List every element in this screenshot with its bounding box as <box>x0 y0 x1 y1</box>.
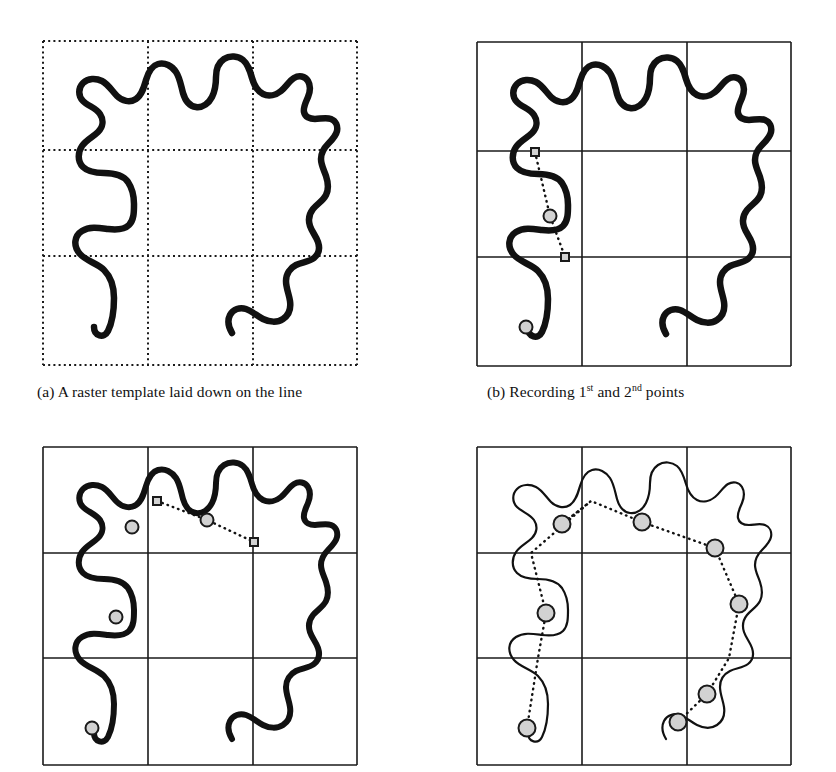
point-1 <box>519 720 536 737</box>
crossing-lower <box>561 253 569 261</box>
crossing-right <box>250 538 258 546</box>
connector-b <box>535 152 565 257</box>
crossing-top <box>153 497 161 505</box>
markers-d <box>519 514 748 737</box>
point-start <box>520 321 533 334</box>
panel-a-raster-template <box>42 40 358 366</box>
panel-c-canvas <box>42 446 358 766</box>
point-6 <box>731 596 748 613</box>
point-4 <box>634 514 651 531</box>
panel-d-completed-generalisation <box>476 446 792 766</box>
caption-b-text-middle: and 2 <box>593 383 631 400</box>
caption-b-text-after: points <box>642 383 684 400</box>
caption-b-prefix: (b) <box>487 383 505 400</box>
connectors-b <box>535 152 565 257</box>
crossing-upper <box>531 148 539 156</box>
panel-d-canvas <box>476 446 792 766</box>
panel-b-canvas <box>476 41 792 367</box>
panel-c-third-fourth-points <box>42 446 358 766</box>
line-curve-a <box>75 56 337 335</box>
point-1st <box>110 611 123 624</box>
point-5 <box>707 540 724 557</box>
point-7 <box>699 686 716 703</box>
point-1st <box>544 210 557 223</box>
caption-a-prefix: (a) <box>37 383 55 400</box>
panel-b-first-second-points <box>476 41 792 367</box>
caption-a-text: A raster template laid down on the line <box>58 383 303 400</box>
point-8 <box>670 714 687 731</box>
point-3 <box>554 516 571 533</box>
figure-root: (a) A raster template laid down on the l… <box>0 0 836 772</box>
point-2 <box>538 605 555 622</box>
caption-b-text-before: Recording 1 <box>509 383 586 400</box>
point-3rd <box>201 514 214 527</box>
panel-a-canvas <box>42 40 358 366</box>
caption-panel-a: (a) A raster template laid down on the l… <box>37 383 302 401</box>
line-curve-b <box>509 57 771 336</box>
caption-panel-b: (b) Recording 1st and 2nd points <box>487 383 684 401</box>
caption-b-ordinal-second: nd <box>632 382 642 393</box>
point-start <box>86 722 99 735</box>
line-curve-c <box>75 462 337 741</box>
point-2nd <box>126 521 139 534</box>
